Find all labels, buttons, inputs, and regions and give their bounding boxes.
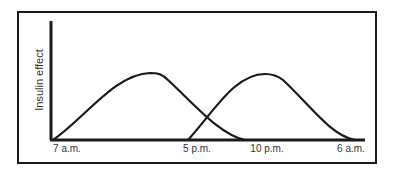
curve-dose-2 xyxy=(188,74,355,140)
x-tick-7am: 7 a.m. xyxy=(53,143,81,154)
x-tick-6am: 6 a.m. xyxy=(337,143,365,154)
x-tick-10pm: 10 p.m. xyxy=(250,143,283,154)
y-axis-label: Insulin effect xyxy=(33,49,45,111)
x-tick-5pm: 5 p.m. xyxy=(183,143,211,154)
